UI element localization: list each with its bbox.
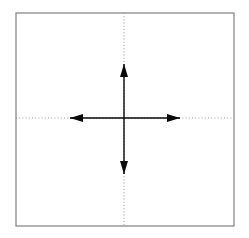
- figure-canvas: [0, 0, 249, 238]
- cross-arrows-diagram: [0, 0, 249, 238]
